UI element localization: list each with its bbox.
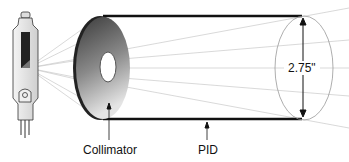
collimator-disk [73,16,130,120]
pid-label: PID [198,143,218,157]
x-ray-tube [13,12,38,138]
collimator-label: Collimator [83,143,137,157]
collimator-pid-diagram [0,0,349,162]
diameter-label: 2.75" [288,61,316,75]
label-pointers [107,103,209,140]
